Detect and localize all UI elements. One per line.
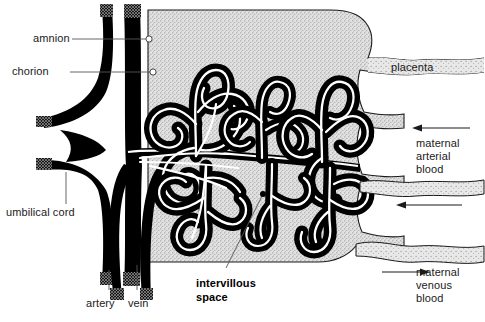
amnion-torn-edge-left-lower xyxy=(36,158,52,170)
chorionic-plate xyxy=(123,4,142,286)
label-vein: vein xyxy=(128,297,149,310)
diagram-canvas xyxy=(0,0,485,322)
label-amnion: amnion xyxy=(33,32,70,45)
label-maternal-venous-line2: venous xyxy=(416,279,452,292)
amnion-band-torn-bottom xyxy=(100,272,113,285)
artery-endpoint-dot xyxy=(106,264,112,270)
chorion-torn-edge-top xyxy=(124,4,141,18)
amnion-endpoint-marker xyxy=(146,36,152,42)
arrow-maternal-arterial-1 xyxy=(412,124,470,131)
label-maternal-arterial-line3: blood xyxy=(416,163,443,176)
vein-endpoint-dot xyxy=(134,259,140,265)
amnion-torn-edge-left xyxy=(36,116,52,127)
label-intervillous-space-line1: intervillous xyxy=(196,277,256,290)
arrow-maternal-arterial-2 xyxy=(396,201,462,208)
maternal-vein-channel xyxy=(356,242,484,263)
label-maternal-venous-line1: maternal xyxy=(416,266,460,279)
label-maternal-venous-line3: blood xyxy=(416,292,443,305)
placenta-diagram-figure: amnion chorion umbilical cord artery vei… xyxy=(0,0,485,322)
intervillous-endpoint-dot xyxy=(260,191,266,197)
label-intervillous-space-line2: space xyxy=(196,291,228,304)
amnion-torn-edge-top xyxy=(100,4,113,17)
label-placenta: placenta xyxy=(391,61,433,74)
amnion-fold-mid xyxy=(60,130,106,162)
label-umbilical-cord: umbilical cord xyxy=(6,206,75,219)
label-artery: artery xyxy=(86,297,115,310)
label-maternal-arterial-line2: arterial xyxy=(416,150,450,163)
amnion-band-upper xyxy=(44,8,113,128)
chorion-band xyxy=(124,8,142,284)
amnion-membrane xyxy=(36,4,113,285)
spiral-artery-channel-mid xyxy=(360,180,484,197)
label-chorion: chorion xyxy=(12,65,49,78)
chorion-endpoint-marker xyxy=(150,69,156,75)
amnion-band-lower xyxy=(44,160,113,284)
label-maternal-arterial-line1: maternal xyxy=(416,137,460,150)
